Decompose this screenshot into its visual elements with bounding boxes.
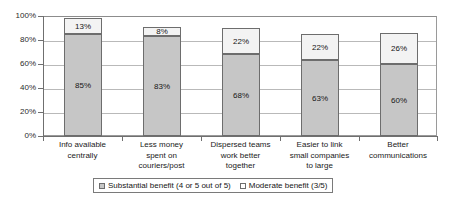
- x-category-label-4-line-1: communications: [357, 151, 439, 162]
- x-category-label-3: Easier to link small companies to large: [280, 140, 359, 172]
- chart-legend: Substantial benefit (4 or 5 out of 5) Mo…: [93, 178, 333, 193]
- x-category-label-0: Info available centrally: [43, 140, 122, 161]
- bar-label-substantial-0: 85%: [75, 81, 91, 90]
- legend-swatch-moderate-icon: [240, 183, 246, 189]
- bar-segment-moderate-4: 26%: [380, 33, 418, 64]
- x-category-label-2: Dispersed teams work better together: [201, 140, 280, 172]
- y-tick-60: [38, 64, 43, 65]
- stacked-bar-chart: 100% 80% 60% 40% 20% 0% 13% 85% 8% 83% 2…: [0, 0, 455, 204]
- bar-segment-substantial-3: 63%: [301, 60, 339, 136]
- bar-label-moderate-4: 26%: [391, 44, 407, 53]
- x-category-label-4: Better communications: [357, 140, 439, 161]
- bar-label-moderate-2: 22%: [233, 37, 249, 46]
- x-category-label-0-line-0: Info available: [43, 140, 122, 151]
- x-category-label-1-line-0: Less money: [122, 140, 201, 151]
- x-category-label-3-line-0: Easier to link: [280, 140, 359, 151]
- bar-segment-moderate-2: 22%: [222, 28, 260, 54]
- legend-item-substantial[interactable]: Substantial benefit (4 or 5 out of 5): [99, 181, 231, 190]
- y-tick-40: [38, 88, 43, 89]
- y-axis-line: [43, 16, 44, 137]
- bar-label-substantial-4: 60%: [391, 96, 407, 105]
- bar-segment-substantial-1: 83%: [143, 36, 181, 136]
- bar-segment-moderate-1: 8%: [143, 27, 181, 37]
- bar-segment-substantial-4: 60%: [380, 64, 418, 136]
- x-category-label-2-line-1: work better: [201, 151, 280, 162]
- x-category-label-1-line-2: couriers/post: [122, 161, 201, 172]
- bar-group-1: 8% 83%: [143, 16, 181, 136]
- bar-label-moderate-3: 22%: [312, 43, 328, 52]
- y-axis-label-100: 100%: [0, 12, 36, 20]
- y-tick-100: [38, 16, 43, 17]
- bar-group-0: 13% 85%: [64, 16, 102, 136]
- y-tick-80: [38, 40, 43, 41]
- legend-label-moderate: Moderate benefit (3/5): [249, 181, 328, 190]
- x-category-label-0-line-1: centrally: [43, 151, 122, 162]
- bar-label-substantial-3: 63%: [312, 94, 328, 103]
- y-axis-label-80: 80%: [0, 36, 36, 44]
- x-category-label-3-line-2: to large: [280, 161, 359, 172]
- y-axis-label-40: 40%: [0, 84, 36, 92]
- x-category-label-1-line-1: spent on: [122, 151, 201, 162]
- bar-group-2: 22% 68%: [222, 16, 260, 136]
- bar-segment-substantial-2: 68%: [222, 54, 260, 136]
- bar-segment-moderate-0: 13%: [64, 18, 102, 34]
- bar-group-3: 22% 63%: [301, 16, 339, 136]
- legend-swatch-substantial-icon: [99, 183, 105, 189]
- y-tick-20: [38, 112, 43, 113]
- x-category-label-3-line-1: small companies: [280, 151, 359, 162]
- bar-segment-substantial-0: 85%: [64, 34, 102, 136]
- bar-label-moderate-1: 8%: [156, 27, 168, 36]
- x-category-label-2-line-0: Dispersed teams: [201, 140, 280, 151]
- bar-label-substantial-2: 68%: [233, 91, 249, 100]
- x-axis-line: [43, 136, 438, 137]
- bar-group-4: 26% 60%: [380, 16, 418, 136]
- bar-label-moderate-0: 13%: [75, 22, 91, 31]
- y-axis-label-0: 0%: [0, 132, 36, 140]
- y-axis-label-20: 20%: [0, 108, 36, 116]
- legend-label-substantial: Substantial benefit (4 or 5 out of 5): [108, 181, 231, 190]
- x-category-label-1: Less money spent on couriers/post: [122, 140, 201, 172]
- bar-segment-moderate-3: 22%: [301, 34, 339, 60]
- legend-item-moderate[interactable]: Moderate benefit (3/5): [240, 181, 328, 190]
- y-axis-label-60: 60%: [0, 60, 36, 68]
- x-category-label-4-line-0: Better: [357, 140, 439, 151]
- bar-label-substantial-1: 83%: [154, 82, 170, 91]
- x-category-label-2-line-2: together: [201, 161, 280, 172]
